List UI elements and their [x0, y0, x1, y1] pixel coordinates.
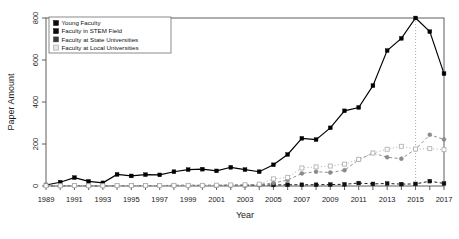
data-point: [442, 182, 446, 186]
data-point: [129, 184, 133, 188]
x-tick-label-1991: 1991: [66, 195, 83, 204]
series-line-3: [46, 135, 444, 186]
series-3: [44, 133, 446, 188]
data-point: [215, 183, 219, 187]
data-point: [428, 30, 432, 34]
data-point: [271, 177, 275, 181]
chart-root: 0200400600800Paper Amount198919911993199…: [0, 0, 459, 239]
data-point: [442, 148, 446, 152]
data-point: [414, 16, 418, 20]
data-point: [243, 183, 247, 187]
data-point: [343, 168, 347, 172]
x-tick-label-2009: 2009: [322, 195, 339, 204]
x-tick-label-2003: 2003: [237, 195, 254, 204]
y-axis-title: Paper Amount: [6, 73, 16, 131]
data-point: [200, 183, 204, 187]
chart-legend: Young FacultyFaculty in STEM FieldFacult…: [49, 17, 171, 53]
data-point: [428, 179, 432, 183]
x-tick-label-2017: 2017: [436, 195, 453, 204]
paper-amount-line-chart: 0200400600800Paper Amount198919911993199…: [0, 0, 459, 239]
data-point: [442, 137, 446, 141]
data-point: [399, 36, 403, 40]
data-point: [271, 181, 275, 185]
data-point: [300, 183, 304, 187]
x-tick-label-2013: 2013: [379, 195, 396, 204]
x-tick-label-1989: 1989: [38, 195, 55, 204]
x-tick-label-2011: 2011: [351, 195, 367, 204]
data-point: [385, 155, 389, 159]
data-point: [229, 165, 233, 169]
legend-swatch: [54, 37, 59, 42]
y-tick-label-800: 800: [31, 12, 40, 25]
data-point: [101, 184, 105, 188]
x-tick-label-2005: 2005: [265, 195, 282, 204]
legend-swatch: [54, 21, 59, 26]
data-point: [300, 171, 304, 175]
data-point: [328, 126, 332, 130]
data-point: [314, 183, 318, 187]
data-point: [385, 49, 389, 53]
data-point: [286, 153, 290, 157]
data-point: [343, 109, 347, 113]
y-tick-label-400: 400: [31, 96, 40, 109]
data-point: [371, 182, 375, 186]
data-point: [357, 181, 361, 185]
data-point: [314, 138, 318, 142]
data-point: [371, 84, 375, 88]
x-tick-label-1999: 1999: [180, 195, 197, 204]
data-point: [314, 165, 318, 169]
data-point: [343, 162, 347, 166]
data-point: [357, 106, 361, 110]
data-point: [328, 183, 332, 187]
data-point: [200, 167, 204, 171]
x-tick-label-1997: 1997: [151, 195, 168, 204]
series-line-4: [46, 146, 444, 185]
x-tick-label-1995: 1995: [123, 195, 140, 204]
data-point: [172, 183, 176, 187]
legend-swatch: [54, 45, 59, 50]
legend-label-1: Young Faculty: [62, 19, 102, 26]
data-point: [399, 157, 403, 161]
legend-label-2: Faculty in STEM Field: [62, 27, 123, 34]
data-point: [328, 164, 332, 168]
data-point: [115, 173, 119, 177]
data-point: [286, 175, 290, 179]
data-point: [186, 168, 190, 172]
legend-label-3: Faculty at State Universities: [62, 36, 139, 43]
data-point: [115, 184, 119, 188]
data-point: [399, 182, 403, 186]
data-point: [300, 136, 304, 140]
y-tick-label-200: 200: [31, 138, 40, 151]
data-point: [428, 133, 432, 137]
x-tick-label-2001: 2001: [208, 195, 225, 204]
data-point: [300, 166, 304, 170]
data-point: [144, 173, 148, 177]
data-point: [385, 182, 389, 186]
x-tick-label-1993: 1993: [95, 195, 112, 204]
data-point: [286, 183, 290, 187]
data-point: [399, 144, 403, 148]
data-point: [229, 183, 233, 187]
data-point: [73, 176, 77, 180]
x-tick-label-2007: 2007: [294, 195, 311, 204]
data-point: [314, 170, 318, 174]
data-point: [58, 184, 62, 188]
legend-swatch: [54, 29, 59, 34]
data-point: [129, 174, 133, 178]
legend-label-4: Faculty at Local Universities: [62, 44, 139, 51]
data-point: [72, 184, 76, 188]
data-point: [158, 184, 162, 188]
data-point: [243, 168, 247, 172]
data-point: [257, 170, 261, 174]
data-point: [357, 157, 361, 161]
data-point: [428, 147, 432, 151]
data-point: [186, 183, 190, 187]
data-point: [87, 179, 91, 183]
y-tick-label-600: 600: [31, 54, 40, 67]
data-point: [442, 72, 446, 76]
data-point: [172, 170, 176, 174]
data-point: [272, 163, 276, 167]
data-point: [371, 151, 375, 155]
data-point: [257, 182, 261, 186]
data-point: [414, 147, 418, 151]
